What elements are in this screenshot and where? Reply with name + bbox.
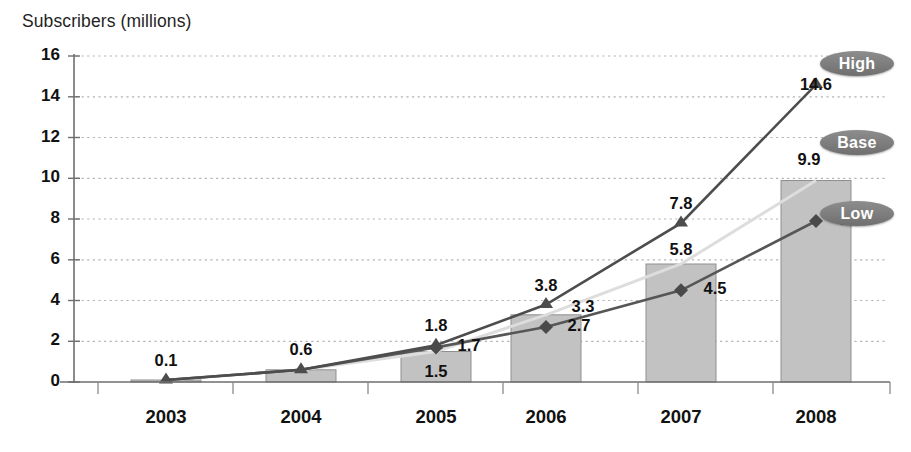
y-tick-label-0: 0 [26,371,60,391]
data-label-low-2005: 1.7 [446,336,492,355]
x-tick-label-2003: 2003 [121,406,211,428]
chart-container: Subscribers (millions) [0,0,911,452]
y-tick-label-6: 6 [26,249,60,269]
data-label-low-2006: 2.7 [556,316,602,335]
callout-low: Low [820,201,894,226]
y-tick-label-16: 16 [26,45,60,65]
callout-base: Base [820,130,894,155]
data-label-high-2003: 0.1 [143,351,189,370]
x-tick-label-2006: 2006 [501,406,591,428]
data-label-base-2008: 9.9 [786,150,832,169]
callout-high: High [820,51,894,76]
x-tick-marks [98,382,890,394]
y-tick-label-2: 2 [26,330,60,350]
chart-plot-area [0,0,911,452]
x-tick-label-2004: 2004 [256,406,346,428]
y-tick-label-4: 4 [26,290,60,310]
y-tick-label-12: 12 [26,127,60,147]
data-label-low-2007: 4.5 [692,279,738,298]
data-label-high-2004: 0.6 [278,340,324,359]
data-label-high-2005: 1.8 [413,316,459,335]
x-tick-label-2005: 2005 [391,406,481,428]
data-label-high-2008: 14.6 [786,75,846,94]
data-label-base-2007: 5.8 [658,240,704,259]
gridlines [76,56,886,341]
y-tick-label-10: 10 [26,167,60,187]
y-tick-label-8: 8 [26,208,60,228]
y-tick-label-14: 14 [26,86,60,106]
x-tick-label-2007: 2007 [636,406,726,428]
data-label-base-2006: 3.3 [560,297,606,316]
data-label-high-2007: 7.8 [658,194,704,213]
data-label-base-2005: 1.5 [413,362,459,381]
data-label-high-2006: 3.8 [523,276,569,295]
x-tick-label-2008: 2008 [771,406,861,428]
